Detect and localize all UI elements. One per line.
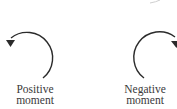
negative-moment-label: Negative moment bbox=[115, 84, 175, 106]
negative-moment-arrow-icon bbox=[134, 32, 177, 78]
positive-moment-label: Positive moment bbox=[5, 84, 65, 106]
label-line-2: moment bbox=[115, 95, 175, 106]
positive-moment-arrow-icon bbox=[6, 32, 53, 78]
scan-artifact bbox=[150, 0, 160, 3]
label-line-2: moment bbox=[5, 95, 65, 106]
